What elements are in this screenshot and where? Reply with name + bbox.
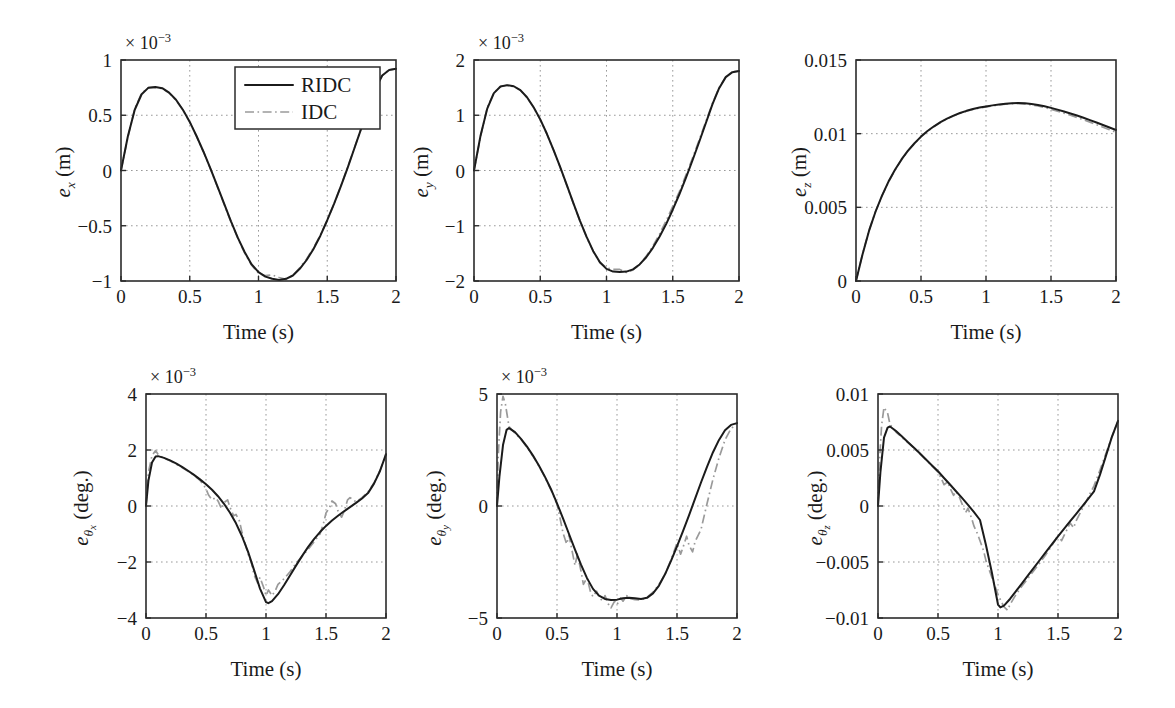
x-axis-title: Time (s)	[571, 320, 642, 344]
y-tick-label: 0.015	[804, 50, 847, 71]
x-tick-label: 2	[734, 286, 744, 307]
x-tick-label: 0	[469, 286, 479, 307]
x-tick-label: 0	[116, 286, 126, 307]
x-tick-label: 2	[732, 623, 742, 644]
y-tick-label: −0.01	[825, 608, 869, 629]
x-tick-label: 1	[981, 286, 991, 307]
x-tick-label: 0.5	[194, 623, 218, 644]
x-tick-label: 2	[1113, 623, 1123, 644]
x-tick-label: 1.5	[665, 623, 689, 644]
y-tick-label: 1	[103, 50, 113, 71]
x-tick-label: 2	[381, 623, 391, 644]
x-tick-label: 1.5	[315, 286, 339, 307]
x-tick-label: 1.5	[661, 286, 685, 307]
x-tick-label: 0.5	[545, 623, 569, 644]
x-axis-title: Time (s)	[582, 657, 653, 681]
y-tick-label: 0.005	[804, 197, 847, 218]
x-tick-label: 0.5	[178, 286, 202, 307]
y-tick-label: 0	[838, 271, 848, 292]
x-tick-label: 1	[261, 623, 271, 644]
x-tick-label: 0.5	[909, 286, 933, 307]
x-tick-label: 1	[254, 286, 264, 307]
y-tick-label: −2	[445, 271, 465, 292]
multi-panel-error-figure: 00.511.52−1−0.500.51× 10−3Time (s)ex (m)…	[0, 0, 1175, 708]
y-tick-label: −2	[117, 552, 137, 573]
x-axis-title: Time (s)	[231, 657, 302, 681]
x-tick-label: 0.5	[926, 623, 950, 644]
x-tick-label: 0	[492, 623, 502, 644]
y-tick-label: 2	[456, 50, 466, 71]
y-tick-label: −0.5	[78, 216, 112, 237]
y-tick-label: 0.01	[836, 384, 869, 405]
x-tick-label: 1	[993, 623, 1003, 644]
y-axis-title: ez (m)	[787, 147, 814, 197]
y-tick-label: 0.005	[826, 440, 869, 461]
x-tick-label: 2	[1111, 286, 1121, 307]
y-tick-label: 0	[860, 496, 870, 517]
y-tick-label: −0.005	[816, 552, 869, 573]
y-axis-title: ey (m)	[409, 147, 436, 198]
legend-label-ridc: RIDC	[301, 73, 351, 97]
x-tick-label: 0	[851, 286, 861, 307]
x-tick-label: 1.5	[314, 623, 338, 644]
legend-label-idc: IDC	[301, 100, 337, 124]
y-tick-label: 2	[128, 440, 138, 461]
y-tick-label: −4	[117, 608, 138, 629]
y-tick-label: 4	[128, 384, 138, 405]
x-tick-label: 0	[873, 623, 883, 644]
y-tick-label: 1	[456, 105, 466, 126]
x-tick-label: 1.5	[1039, 286, 1063, 307]
y-tick-label: 5	[479, 384, 489, 405]
y-tick-label: −5	[468, 608, 488, 629]
y-tick-label: −1	[92, 271, 112, 292]
y-tick-label: 0	[103, 161, 113, 182]
x-axis-title: Time (s)	[951, 320, 1022, 344]
x-tick-label: 0	[141, 623, 151, 644]
y-tick-label: 0.01	[814, 124, 847, 145]
legend: RIDCIDC	[235, 67, 380, 129]
y-axis-title: ex (m)	[51, 147, 78, 198]
x-tick-label: 0.5	[528, 286, 552, 307]
y-tick-label: 0	[479, 496, 489, 517]
x-tick-label: 1.5	[1046, 623, 1070, 644]
x-tick-label: 1	[612, 623, 622, 644]
y-tick-label: 0	[128, 496, 138, 517]
x-axis-title: Time (s)	[963, 657, 1034, 681]
x-tick-label: 1	[602, 286, 612, 307]
y-tick-label: −1	[445, 216, 465, 237]
y-tick-label: 0.5	[88, 105, 112, 126]
x-axis-title: Time (s)	[223, 320, 294, 344]
y-tick-label: 0	[456, 161, 466, 182]
x-tick-label: 2	[391, 286, 401, 307]
